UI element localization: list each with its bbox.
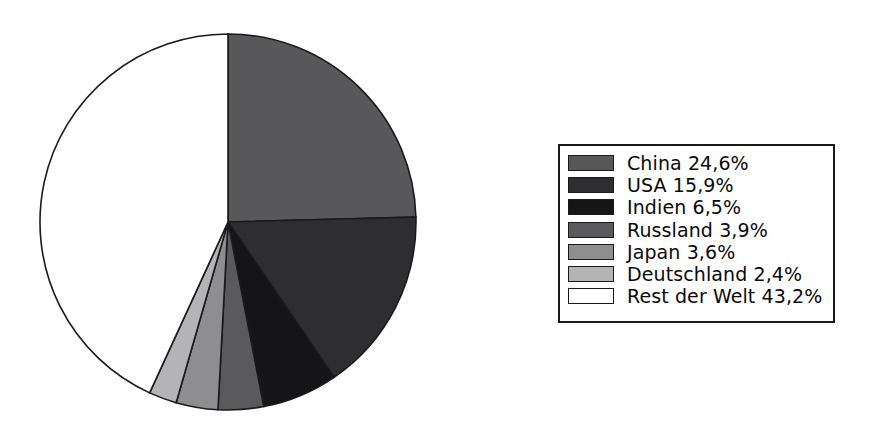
pie-slice-china[interactable] — [228, 34, 416, 222]
pie-chart-plot-area — [0, 0, 470, 430]
legend-item[interactable]: Deutschland 2,4% — [568, 263, 833, 285]
legend-label-indien: Indien 6,5% — [627, 197, 741, 217]
legend-swatch-japan — [568, 244, 614, 260]
legend-item[interactable]: Rest der Welt 43,2% — [568, 285, 833, 307]
legend-label-deutschland: Deutschland 2,4% — [627, 264, 802, 284]
pie-chart-svg — [0, 0, 470, 430]
legend-label-china: China 24,6% — [627, 153, 749, 173]
legend-swatch-china — [568, 155, 614, 171]
legend-item[interactable]: Indien 6,5% — [568, 196, 833, 218]
legend: China 24,6% USA 15,9% Indien 6,5% Russla… — [558, 144, 835, 323]
legend-swatch-deutschland — [568, 266, 614, 282]
legend-label-russland: Russland 3,9% — [627, 220, 768, 240]
legend-label-rest-der-welt: Rest der Welt 43,2% — [627, 286, 822, 306]
legend-item[interactable]: China 24,6% — [568, 152, 833, 174]
legend-label-usa: USA 15,9% — [627, 175, 734, 195]
pie-chart-figure: China 24,6% USA 15,9% Indien 6,5% Russla… — [0, 0, 885, 430]
legend-item[interactable]: Russland 3,9% — [568, 219, 833, 241]
legend-swatch-russland — [568, 222, 614, 238]
pie-slice-group — [40, 34, 416, 410]
legend-label-japan: Japan 3,6% — [627, 242, 735, 262]
legend-swatch-indien — [568, 199, 614, 215]
legend-swatch-usa — [568, 177, 614, 193]
legend-item[interactable]: Japan 3,6% — [568, 241, 833, 263]
legend-swatch-rest-der-welt — [568, 288, 614, 304]
legend-item[interactable]: USA 15,9% — [568, 174, 833, 196]
